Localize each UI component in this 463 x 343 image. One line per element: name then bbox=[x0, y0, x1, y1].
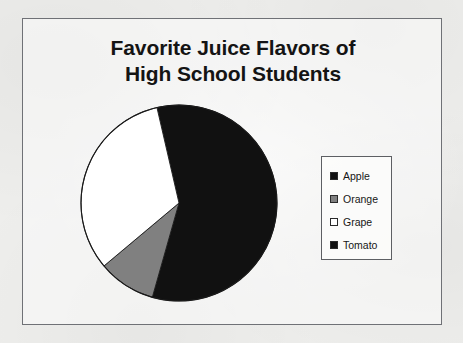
legend-item-tomato[interactable]: Tomato bbox=[330, 234, 391, 256]
legend-label-apple: Apple bbox=[343, 171, 370, 182]
chart-frame: Favorite Juice Flavors of High School St… bbox=[22, 18, 442, 325]
legend-item-orange[interactable]: Orange bbox=[330, 188, 391, 210]
chart-title-line-2: High School Students bbox=[23, 61, 443, 87]
legend-swatch-apple bbox=[330, 172, 338, 180]
legend-item-grape[interactable]: Grape bbox=[330, 211, 391, 233]
legend-label-tomato: Tomato bbox=[343, 240, 377, 251]
pie-slice-group bbox=[81, 105, 277, 301]
legend-item-apple[interactable]: Apple bbox=[330, 165, 391, 187]
legend-swatch-grape bbox=[330, 218, 338, 226]
chart-title: Favorite Juice Flavors of High School St… bbox=[23, 35, 443, 86]
pie-chart-svg bbox=[79, 103, 279, 303]
legend-label-grape: Grape bbox=[343, 217, 372, 228]
legend-label-orange: Orange bbox=[343, 194, 378, 205]
pie-chart bbox=[79, 103, 279, 303]
legend-swatch-orange bbox=[330, 195, 338, 203]
legend-swatch-tomato bbox=[330, 241, 338, 249]
chart-title-line-1: Favorite Juice Flavors of bbox=[23, 35, 443, 61]
legend: Apple Orange Grape Tomato bbox=[321, 156, 392, 260]
